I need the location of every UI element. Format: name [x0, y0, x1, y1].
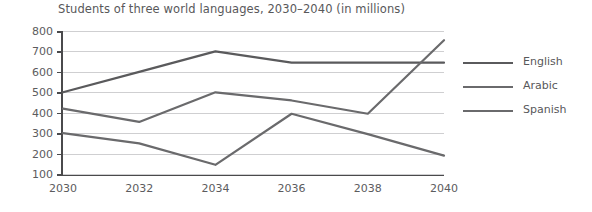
x-axis-label: 2040: [419, 183, 469, 194]
chart-title: Students of three world languages, 2030–…: [58, 2, 405, 16]
legend-line-swatch: [463, 86, 513, 88]
x-axis-label: 2034: [190, 183, 240, 194]
y-axis-label: 400: [19, 108, 53, 119]
series-line-english: [63, 51, 444, 92]
y-axis-label: 500: [19, 87, 53, 98]
legend-item-english[interactable]: English: [463, 52, 589, 76]
x-axis-label: 2036: [267, 183, 317, 194]
series-lines: [61, 31, 444, 176]
plot-area: [61, 31, 444, 176]
line-chart: Students of three world languages, 2030–…: [0, 0, 592, 212]
x-axis-label: 2032: [114, 183, 164, 194]
series-line-arabic: [63, 40, 444, 122]
legend-label: Spanish: [523, 103, 566, 116]
x-axis-label: 2030: [38, 183, 88, 194]
legend-line-swatch: [463, 110, 513, 112]
legend-label: Arabic: [523, 79, 558, 92]
legend-item-spanish[interactable]: Spanish: [463, 100, 589, 124]
legend-line-swatch: [463, 62, 513, 64]
y-axis-label: 700: [19, 46, 53, 57]
legend-label: English: [523, 55, 563, 68]
legend-item-arabic[interactable]: Arabic: [463, 76, 589, 100]
series-line-spanish: [63, 114, 444, 165]
y-axis-label: 200: [19, 149, 53, 160]
y-axis-label: 300: [19, 128, 53, 139]
y-axis-label: 600: [19, 67, 53, 78]
chart-legend: EnglishArabicSpanish: [463, 52, 589, 124]
y-axis-label: 800: [19, 26, 53, 37]
y-axis-label: 100: [19, 169, 53, 180]
x-axis-label: 2038: [343, 183, 393, 194]
